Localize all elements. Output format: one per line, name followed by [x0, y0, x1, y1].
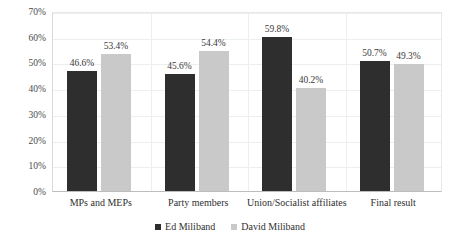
y-axis-tick-label: 20%: [6, 136, 46, 146]
legend-item[interactable]: David Miliband: [231, 221, 305, 232]
bar-value-label: 59.8%: [249, 24, 305, 35]
legend-item[interactable]: Ed Miliband: [155, 221, 215, 232]
bar-david-miliband[interactable]: [296, 88, 326, 191]
bar-value-label: 49.3%: [381, 51, 437, 62]
bar-value-label: 54.4%: [186, 38, 242, 49]
x-axis-category-label: MPs and MEPs: [52, 197, 150, 209]
square-swatch-dark-icon: [155, 224, 161, 230]
bar-david-miliband[interactable]: [101, 54, 131, 191]
y-axis-tick-label: 0%: [6, 187, 46, 197]
y-axis-tick-label: 40%: [6, 84, 46, 94]
plot-area: 46.6%53.4%45.6%54.4%59.8%40.2%50.7%49.3%: [52, 12, 442, 192]
bar-group: 59.8%40.2%: [248, 13, 346, 191]
bar-group: 50.7%49.3%: [346, 13, 444, 191]
legend-label: David Miliband: [241, 221, 305, 232]
x-axis-category-label: Final result: [345, 197, 443, 209]
bar-group: 45.6%54.4%: [151, 13, 249, 191]
bar-ed-miliband[interactable]: [360, 61, 390, 191]
x-axis-category-label: Party members: [150, 197, 248, 209]
bar-david-miliband[interactable]: [199, 51, 229, 191]
y-axis-tick-label: 60%: [6, 33, 46, 43]
legend-label: Ed Miliband: [165, 221, 215, 232]
bar-ed-miliband[interactable]: [165, 74, 195, 191]
bar-ed-miliband[interactable]: [262, 37, 292, 191]
bar-ed-miliband[interactable]: [67, 71, 97, 191]
square-swatch-light-icon: [231, 224, 237, 230]
chart-legend: Ed MilibandDavid Miliband: [0, 221, 460, 232]
x-axis-category-label: Union/Socialist affiliates: [247, 197, 345, 209]
y-axis-tick-label: 30%: [6, 110, 46, 120]
y-axis-tick-label: 50%: [6, 58, 46, 68]
bar-chart: 0%10%20%30%40%50%60%70% 46.6%53.4%45.6%5…: [0, 0, 460, 243]
y-axis-tick-label: 10%: [6, 161, 46, 171]
bar-group: 46.6%53.4%: [53, 13, 151, 191]
bar-david-miliband[interactable]: [394, 64, 424, 191]
bar-value-label: 53.4%: [88, 41, 144, 52]
bar-value-label: 40.2%: [283, 75, 339, 86]
y-axis-tick-label: 70%: [6, 7, 46, 17]
